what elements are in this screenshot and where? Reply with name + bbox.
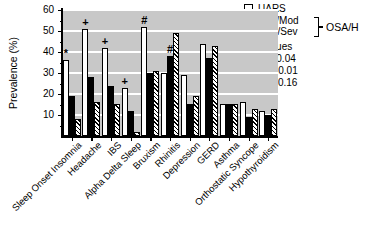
bar-mod-sev-6 bbox=[193, 96, 199, 136]
osah-bracket-dash bbox=[319, 26, 323, 28]
significance-marker-42: * bbox=[64, 48, 68, 59]
significance-marker-35: # bbox=[167, 44, 173, 55]
x-tick-10 bbox=[268, 138, 269, 141]
significance-marker-43: + bbox=[122, 76, 128, 87]
bar-mod-sev-1 bbox=[94, 102, 100, 136]
significance-marker-43: + bbox=[82, 17, 88, 28]
bar-mod-sev-5 bbox=[173, 33, 179, 136]
x-tick-1 bbox=[91, 138, 92, 141]
x-tick-8 bbox=[229, 138, 230, 141]
y-tick-label-50: 50 bbox=[32, 26, 54, 36]
x-tick-3 bbox=[131, 138, 132, 141]
bar-mod-sev-7 bbox=[212, 46, 218, 136]
gridline-60 bbox=[62, 9, 278, 11]
y-tick-label-60: 60 bbox=[32, 5, 54, 15]
x-tick-5 bbox=[170, 138, 171, 141]
y-tick-label-20: 20 bbox=[32, 89, 54, 99]
gridline-50 bbox=[62, 30, 278, 32]
bar-chart-figure: Prevalence (%) UARS Mild/Mod Mod/Sev OSA… bbox=[0, 0, 375, 225]
y-tick-label-10: 10 bbox=[32, 110, 54, 120]
bar-mod-sev-0 bbox=[75, 119, 81, 136]
bar-mod-sev-8 bbox=[232, 104, 238, 136]
osah-label: OSA/H bbox=[326, 21, 359, 33]
x-tick-9 bbox=[249, 138, 250, 141]
significance-marker-43: + bbox=[102, 36, 108, 47]
bar-mod-sev-9 bbox=[252, 109, 258, 136]
y-tick-label-40: 40 bbox=[32, 47, 54, 57]
bar-mod-sev-4 bbox=[153, 71, 159, 136]
bar-mod-sev-10 bbox=[271, 109, 277, 136]
y-tick-label-30: 30 bbox=[32, 68, 54, 78]
x-tick-2 bbox=[111, 138, 112, 141]
y-axis-line bbox=[61, 8, 63, 136]
y-axis-title: Prevalence (%) bbox=[7, 23, 21, 123]
x-tick-0 bbox=[72, 138, 73, 141]
x-tick-7 bbox=[209, 138, 210, 141]
x-tick-4 bbox=[150, 138, 151, 141]
significance-marker-35: # bbox=[141, 15, 147, 26]
x-tick-6 bbox=[190, 138, 191, 141]
bar-mod-sev-2 bbox=[114, 104, 120, 136]
